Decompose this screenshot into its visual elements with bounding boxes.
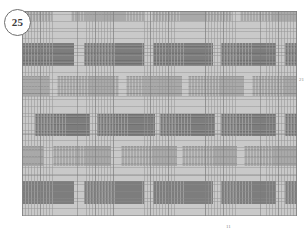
row-5-dark [22,181,297,204]
pattern-block [285,114,297,136]
pattern-block [121,146,177,166]
pattern-block [182,146,237,166]
pattern-block [252,76,297,96]
figure-canvas: 25 21 11 [0,0,308,235]
reference-numeral-right: 21 [299,77,304,82]
pattern-block [221,114,276,136]
pattern-block [22,181,74,204]
pattern-block [126,76,182,96]
gridded-pattern-panel [22,11,297,216]
pattern-block [160,114,215,136]
pattern-block [53,146,111,166]
pattern-block [22,76,49,96]
pattern-block [240,11,297,21]
pattern-block [97,114,155,136]
pattern-block [35,114,90,136]
pattern-block [84,43,144,66]
pattern-block [244,146,297,166]
pattern-block [153,43,213,66]
reference-numeral-bottom: 11 [226,224,231,229]
pattern-block [71,11,144,21]
figure-number-badge: 25 [4,9,31,36]
pattern-block [221,43,276,66]
figure-number-label: 25 [12,17,24,28]
row-2-mid [22,76,297,96]
pattern-block [57,76,119,96]
row-4-mid [22,146,297,166]
pattern-block [285,43,297,66]
row-3-dark [22,114,297,136]
pattern-block [285,181,297,204]
row-1-dark [22,43,297,66]
pattern-block [188,76,244,96]
pattern-block [22,146,44,166]
pattern-block [153,181,213,204]
pattern-block [84,181,144,204]
pattern-block [152,11,232,21]
pattern-block [221,181,276,204]
row-top-mid [22,11,297,21]
pattern-block [22,43,74,66]
